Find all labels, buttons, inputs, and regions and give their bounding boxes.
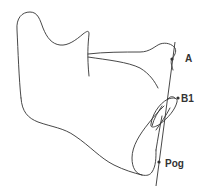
landmark-label-a: A — [185, 53, 192, 64]
landmark-label-b1: B1 — [181, 93, 194, 104]
occlusal-line-lower — [88, 57, 158, 88]
mandible-diagram: A B1 Pog — [0, 0, 206, 196]
landmark-point-a — [170, 57, 173, 60]
occlusal-line-upper — [88, 43, 176, 70]
landmark-label-pog: Pog — [165, 158, 184, 169]
landmark-point-pog — [157, 160, 160, 163]
mandible-outline — [17, 12, 89, 98]
landmark-point-b1 — [176, 96, 179, 99]
mandible-lower-border — [21, 98, 156, 175]
